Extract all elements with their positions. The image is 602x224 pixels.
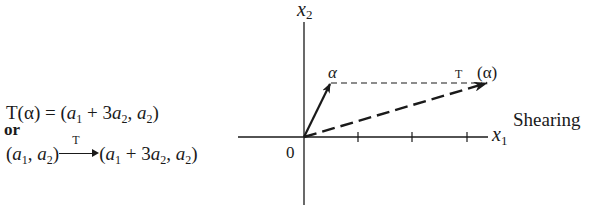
caption-shearing: Shearing <box>513 109 581 130</box>
x2-axis-label: x2 <box>296 0 312 22</box>
shear-diagram: x2 x1 0 α T (α) Shearing <box>0 0 602 224</box>
image-vector-arrow-icon <box>304 83 487 137</box>
image-label-transform: T <box>455 67 463 81</box>
alpha-vector-arrow-icon <box>304 84 330 137</box>
origin-label: 0 <box>286 143 295 162</box>
image-label-argument: (α) <box>477 63 497 82</box>
alpha-label: α <box>328 63 338 82</box>
x1-axis-label: x1 <box>491 123 507 148</box>
